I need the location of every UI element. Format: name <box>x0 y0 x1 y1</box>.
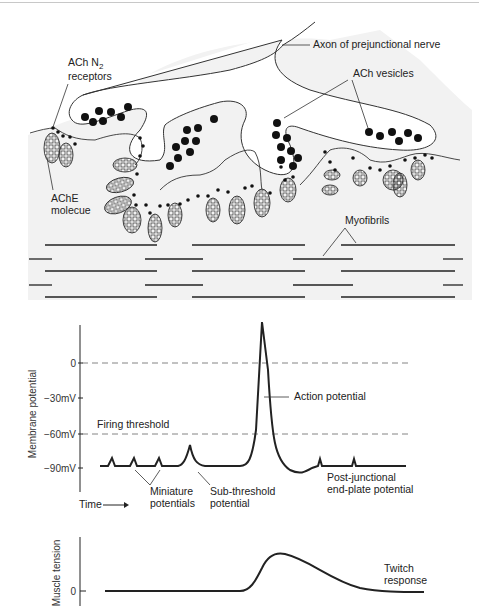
firing-threshold-label: Firing threshold <box>97 418 170 430</box>
ach-receptors-label-line2: receptors <box>68 70 112 82</box>
axon-label: Axon of prejunctional nerve <box>313 38 440 50</box>
muscle-tension-axis-label: Muscle tension <box>51 540 62 606</box>
tension-tick-0: 0 <box>70 586 76 597</box>
ach-vesicles-label: ACh vesicles <box>353 67 414 79</box>
muscle-tension-chart: 0 Muscle tension Twitch response <box>51 537 427 606</box>
neuromuscular-junction-figure: Axon of prejunctional nerve ACh N2 recep… <box>0 0 479 606</box>
twitch-response-label-line2: response <box>384 574 427 586</box>
tick-0: 0 <box>70 358 76 369</box>
tick-minus90: −90mV <box>44 463 76 474</box>
membrane-potential-axis-label: Membrane potential <box>27 370 38 458</box>
ache-label-line2: molecue <box>51 204 91 216</box>
myofibrils-label: Myofibrils <box>345 214 389 226</box>
arrow-head-icon <box>124 502 129 508</box>
ach-receptors-label: ACh N2 <box>68 56 104 71</box>
ache-label: AChE <box>51 192 78 204</box>
membrane-potential-chart: 0 −30mV −60mV −90mV Membrane potential A… <box>27 322 413 510</box>
postjunctional-label-line2: end-plate potential <box>327 483 413 495</box>
tick-minus60: −60mV <box>44 429 76 440</box>
action-potential-label: Action potential <box>294 390 366 402</box>
tick-minus30: −30mV <box>44 393 76 404</box>
twitch-response-trace <box>105 553 424 592</box>
subthreshold-label: Sub-threshold <box>210 485 276 497</box>
subthreshold-label-line2: potential <box>210 497 250 509</box>
miniature-potentials-label-line2: potentials <box>150 497 195 509</box>
postjunctional-label: Post-junctional <box>327 471 396 483</box>
twitch-response-label: Twitch <box>384 562 414 574</box>
time-label: Time <box>79 498 102 510</box>
miniature-potentials-label: Miniature <box>150 485 193 497</box>
